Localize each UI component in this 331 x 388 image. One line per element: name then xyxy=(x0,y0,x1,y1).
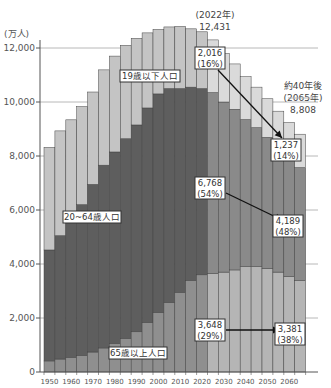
bar-segment xyxy=(131,125,142,332)
bar-segment xyxy=(77,205,88,356)
y-axis-unit-label: (万人) xyxy=(4,29,29,39)
bar-segment xyxy=(273,272,284,372)
bar-segment xyxy=(44,250,55,361)
bar-segment xyxy=(240,120,251,267)
future-years-label: 約40年後 xyxy=(284,80,322,91)
y-tick-label: 2,000 xyxy=(9,313,35,323)
bar-segment xyxy=(55,236,66,359)
bar-segment xyxy=(88,352,99,372)
bar-segment xyxy=(240,267,251,372)
x-tick-label: 2060 xyxy=(280,378,298,386)
x-tick-label: 2050 xyxy=(259,378,277,386)
label-text: 1,237 xyxy=(274,140,298,150)
label-text: (16%) xyxy=(197,59,223,69)
label-text: 2,016 xyxy=(198,48,222,58)
mid-2022-box: 6,768(54%) xyxy=(195,177,225,199)
bar-segment xyxy=(120,45,131,138)
under19-2065-box: 1,237(14%) xyxy=(271,139,301,161)
bar-segment xyxy=(153,313,164,372)
bar-segment xyxy=(120,139,131,339)
x-tick-label: 2020 xyxy=(193,378,211,386)
label-text: (29%) xyxy=(197,331,223,341)
peak-year-label: (2022年) xyxy=(196,9,235,20)
label-text: (54%) xyxy=(197,189,223,199)
bar-segment xyxy=(44,147,55,250)
x-tick-label: 1980 xyxy=(106,378,124,386)
label-text: (14%) xyxy=(273,151,299,161)
bar-segment xyxy=(262,268,273,372)
label-text: 20~64歳人口 xyxy=(64,212,120,222)
bar-segment xyxy=(229,109,240,270)
x-tick-label: 1950 xyxy=(41,378,59,386)
bar-segment xyxy=(77,355,88,372)
bar-segment xyxy=(109,152,120,343)
label-text: 19歳以下人口 xyxy=(122,71,178,81)
y-tick-label: 8,000 xyxy=(9,151,35,161)
x-tick-label: 2030 xyxy=(215,378,233,386)
peak-total-label: 12,431 xyxy=(199,22,231,32)
under19-2022-box: 2,016(16%) xyxy=(195,47,225,69)
bar-segment xyxy=(142,108,153,323)
y-tick-label: 0 xyxy=(29,367,35,377)
population-chart: (万人)02,0004,0006,0008,00010,00012,000195… xyxy=(0,0,331,388)
bar-segment xyxy=(66,357,77,372)
bar-segment xyxy=(77,107,88,205)
bar-segment xyxy=(66,120,77,222)
x-tick-label: 1990 xyxy=(128,378,146,386)
bar-segment xyxy=(99,70,110,165)
y-tick-label: 10,000 xyxy=(4,97,36,107)
bar-segment xyxy=(153,29,164,94)
x-tick-label: 2040 xyxy=(237,378,255,386)
bar-segment xyxy=(164,303,175,372)
label-text: 65歳以上人口 xyxy=(110,348,166,358)
x-tick-label: 1970 xyxy=(84,378,102,386)
label-text: 3,381 xyxy=(278,324,302,334)
bar-segment xyxy=(251,267,262,372)
y-tick-label: 6,000 xyxy=(9,205,35,215)
label-text: (38%) xyxy=(277,335,303,345)
label-text: (48%) xyxy=(275,227,301,237)
future-total-label: 8,808 xyxy=(290,105,316,115)
under19-series-label: 19歳以下人口 xyxy=(120,70,180,82)
bar-segment xyxy=(175,89,186,293)
label-text: 4,189 xyxy=(276,216,300,226)
bar-segment xyxy=(88,184,99,352)
x-tick-label: 1960 xyxy=(62,378,80,386)
bar-segment xyxy=(44,361,55,372)
bar-segment xyxy=(251,128,262,267)
label-text: 6,768 xyxy=(198,178,222,188)
bar-segment xyxy=(153,94,164,313)
y-tick-label: 4,000 xyxy=(9,259,35,269)
bar-segment xyxy=(164,89,175,303)
bar-segment xyxy=(175,292,186,372)
bar-segment xyxy=(109,56,120,152)
x-tick-label: 2010 xyxy=(171,378,189,386)
old-series-label: 65歳以上人口 xyxy=(109,347,167,359)
y-tick-label: 12,000 xyxy=(4,43,36,53)
old-2065-box: 3,381(38%) xyxy=(275,323,305,345)
label-text: 3,648 xyxy=(198,320,222,330)
old-2022-box: 3,648(29%) xyxy=(195,319,225,341)
bar-segment xyxy=(88,92,99,184)
bar-segment xyxy=(229,270,240,372)
mid-series-label: 20~64歳人口 xyxy=(63,211,121,223)
bar-segment xyxy=(229,64,240,109)
bar-segment xyxy=(99,165,110,348)
mid-2065-box: 4,189(48%) xyxy=(273,215,303,237)
bar-segment xyxy=(99,348,110,372)
bar-segment xyxy=(273,148,284,272)
x-tick-label: 2000 xyxy=(150,378,168,386)
bar-segment xyxy=(66,221,77,357)
bar-segment xyxy=(55,359,66,372)
bar-segment xyxy=(240,77,251,120)
